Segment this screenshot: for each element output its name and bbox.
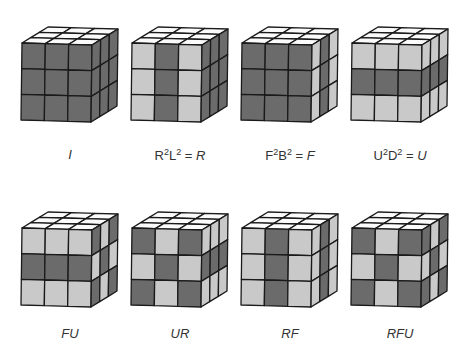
cube-r2l2 — [125, 20, 235, 130]
cube-icon — [15, 205, 125, 315]
cube-fu — [15, 205, 125, 315]
cube-icon — [235, 20, 345, 130]
cube-label: RFU — [342, 326, 458, 341]
cube-label: FU — [12, 326, 128, 341]
cube-icon — [345, 20, 455, 130]
cube-label: R2L2 = R — [122, 147, 238, 163]
cube-u2d2 — [345, 20, 455, 130]
cube-label: I — [12, 147, 128, 162]
cube-i — [15, 20, 125, 130]
cube-rfu — [345, 205, 455, 315]
cube-icon — [125, 205, 235, 315]
cube-icon — [125, 20, 235, 130]
cube-label: RF — [232, 326, 348, 341]
cube-ur — [125, 205, 235, 315]
cube-icon — [15, 20, 125, 130]
cube-label: F2B2 = F — [232, 147, 348, 163]
cube-label: UR — [122, 326, 238, 341]
cube-label: U2D2 = U — [342, 147, 458, 163]
cube-f2b2 — [235, 20, 345, 130]
cube-icon — [235, 205, 345, 315]
cube-icon — [345, 205, 455, 315]
cube-rf — [235, 205, 345, 315]
